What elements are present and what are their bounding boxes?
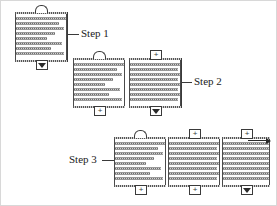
bar: [74, 68, 117, 71]
bar: [74, 98, 122, 101]
callout-bracket-step2: [181, 58, 182, 108]
plus-connector-icon: +: [189, 129, 201, 139]
unit-right-rail: [165, 137, 166, 187]
bar: [115, 177, 163, 180]
callout-label-step1: Step 1: [81, 27, 109, 39]
bar: [169, 147, 217, 150]
assembly-unit-s1-u1[interactable]: [15, 12, 67, 62]
bar: [223, 162, 269, 165]
bar: [130, 78, 178, 81]
bar: [74, 93, 109, 96]
bar-stack: [16, 17, 66, 57]
bar: [169, 177, 217, 180]
triangle-terminator-icon: [150, 106, 162, 116]
assembly-unit-s2-u2[interactable]: +: [129, 58, 181, 108]
bar: [74, 63, 124, 66]
bar: [115, 167, 161, 170]
bar: [16, 42, 62, 45]
plus-connector-icon: +: [94, 106, 106, 116]
bar: [223, 172, 269, 175]
bar: [130, 83, 180, 86]
bar: [16, 22, 59, 25]
bar: [169, 162, 219, 165]
bar-stack: [130, 63, 180, 103]
bar: [74, 83, 105, 86]
bar: [74, 73, 122, 76]
bar: [115, 147, 158, 150]
bar: [16, 47, 51, 50]
bar: [169, 142, 219, 145]
callout-label-step3: Step 3: [69, 153, 97, 165]
bar: [115, 152, 163, 155]
assembly-unit-s3-u1[interactable]: +: [114, 137, 166, 187]
output-arrow-head: [266, 138, 271, 144]
bar: [223, 152, 269, 155]
bar: [223, 167, 269, 170]
bar: [16, 52, 64, 55]
bar: [74, 88, 120, 91]
output-arrow-line: [248, 140, 267, 141]
bar: [169, 167, 217, 170]
bar: [223, 157, 269, 160]
bar: [130, 63, 180, 66]
bar: [115, 172, 150, 175]
assembly-unit-s3-u2[interactable]: + +: [168, 137, 220, 187]
bar: [16, 37, 47, 40]
plus-connector-icon: +: [150, 50, 162, 60]
bar-stack: [74, 63, 124, 103]
bar: [74, 78, 113, 81]
bar: [130, 98, 178, 101]
assembly-unit-s3-u3[interactable]: +: [222, 137, 270, 187]
bar: [115, 162, 146, 165]
bar: [115, 157, 154, 160]
bar: [130, 73, 180, 76]
arch-connector-icon: [35, 5, 48, 13]
callout-leader-step3: [102, 160, 114, 161]
triangle-terminator-icon: [36, 60, 48, 70]
unit-right-rail: [124, 58, 125, 108]
triangle-terminator-icon: [241, 185, 253, 195]
bar: [16, 27, 64, 30]
bar-stack: [223, 142, 269, 182]
bar: [130, 88, 178, 91]
bar: [130, 93, 180, 96]
assembly-unit-s2-u1[interactable]: +: [73, 58, 125, 108]
arch-connector-icon: [93, 51, 106, 59]
unit-right-rail: [219, 137, 220, 187]
unit-right-rail: [269, 137, 270, 187]
bar: [16, 17, 66, 20]
callout-leader-step1: [67, 34, 79, 35]
bar: [223, 177, 269, 180]
bar-stack: [115, 142, 165, 182]
bar: [16, 32, 55, 35]
callout-label-step2: Step 2: [194, 75, 222, 87]
callout-leader-step2: [181, 82, 192, 83]
bar: [169, 157, 217, 160]
bar: [223, 147, 269, 150]
plus-connector-icon: +: [189, 185, 201, 195]
bar: [115, 142, 165, 145]
diagram-canvas: Step 1 +: [0, 0, 277, 206]
arch-connector-icon: [134, 130, 147, 138]
bar-stack: [169, 142, 219, 182]
bar: [169, 152, 219, 155]
plus-connector-icon: +: [241, 129, 253, 139]
plus-connector-icon: +: [135, 185, 147, 195]
bar: [223, 142, 269, 145]
callout-bracket-step1: [67, 12, 68, 62]
bar: [130, 68, 178, 71]
bar: [169, 172, 219, 175]
